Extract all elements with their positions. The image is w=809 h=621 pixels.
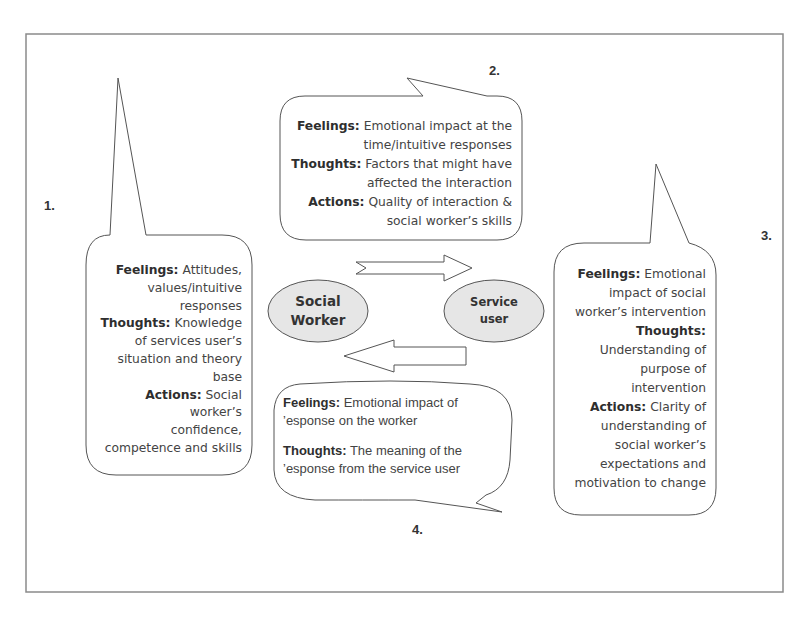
bubble-3-line: Actions: Clarity of <box>558 398 706 417</box>
bubble-1-line: responses <box>90 298 242 316</box>
bubble-2-line: time/intuitive responses <box>284 136 512 155</box>
bubble-3-line: Thoughts: <box>558 322 706 341</box>
bubble-3-line: Understanding of <box>558 341 706 360</box>
bubble-1-text: Feelings: Attitudes, values/intuitive re… <box>90 262 242 458</box>
bubble-4-line: ʼesponse on the worker <box>283 412 508 430</box>
bubble-4-text: Feelings: Emotional impact of ʼesponse o… <box>283 394 508 478</box>
bubble-2-text: Feelings: Emotional impact at the time/i… <box>284 117 512 231</box>
bubble-2-line: affected the interaction <box>284 174 512 193</box>
bubble-4-line: ʼesponse from the service user <box>283 460 508 478</box>
bubble-1-line: situation and theory <box>90 351 242 369</box>
arrow-right-icon <box>356 255 472 281</box>
bubble-3-text: Feelings: Emotional impact of social wor… <box>558 265 706 493</box>
bubble-2-line: Actions: Quality of interaction & <box>284 193 512 212</box>
arrow-left-icon <box>344 340 466 372</box>
bubble-4-spacer <box>283 430 508 442</box>
bubble-2-number: 2. <box>489 63 500 78</box>
bubble-2-line: social worker’s skills <box>284 212 512 231</box>
social-worker-label-line2: Worker <box>268 311 368 330</box>
bubble-3-line: motivation to change <box>558 474 706 493</box>
bubble-3-line: worker’s intervention <box>558 303 706 322</box>
bubble-1-line: confidence, <box>90 422 242 440</box>
bubble-3-number: 3. <box>761 228 772 243</box>
social-worker-node: Social Worker <box>268 292 368 330</box>
bubble-3-line: understanding of <box>558 417 706 436</box>
bubble-2-line: Thoughts: Factors that might have <box>284 155 512 174</box>
bubble-1-line: Thoughts: Knowledge <box>90 315 242 333</box>
service-user-label-line1: Service <box>444 294 544 311</box>
social-worker-label-line1: Social <box>268 292 368 311</box>
bubble-1-number: 1. <box>44 198 55 213</box>
bubble-3-line: impact of social <box>558 284 706 303</box>
bubble-3-line: expectations and <box>558 455 706 474</box>
bubble-1-line: Feelings: Attitudes, <box>90 262 242 280</box>
bubble-3-line: intervention <box>558 379 706 398</box>
bubble-1-line: values/intuitive <box>90 280 242 298</box>
bubble-3-line: Feelings: Emotional <box>558 265 706 284</box>
reflection-diagram: 1. 2. 3. 4. Social Worker Service user F… <box>0 0 809 621</box>
bubble-3-line: social worker’s <box>558 436 706 455</box>
service-user-label-line2: user <box>444 311 544 328</box>
service-user-node: Service user <box>444 294 544 328</box>
bubble-1-line: Actions: Social worker’s <box>90 387 242 423</box>
bubble-4-line: Thoughts: The meaning of the <box>283 442 508 460</box>
bubble-3-line: purpose of <box>558 360 706 379</box>
bubble-4-number: 4. <box>412 522 423 537</box>
bubble-1-line: base <box>90 369 242 387</box>
bubble-4-line: Feelings: Emotional impact of <box>283 394 508 412</box>
bubble-1-line: competence and skills <box>90 440 242 458</box>
bubble-1-line: of services user’s <box>90 333 242 351</box>
bubble-2-line: Feelings: Emotional impact at the <box>284 117 512 136</box>
